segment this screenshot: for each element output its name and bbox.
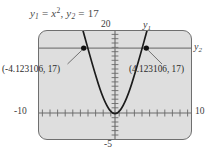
leader-line-left bbox=[68, 50, 82, 64]
graph-figure: y1 = x2, y2 = 17 bbox=[0, 0, 213, 158]
x-axis-min-label: -10 bbox=[14, 106, 27, 116]
curve-label-y2-subscript: 2 bbox=[198, 46, 202, 54]
y-axis-min-label: -5 bbox=[104, 139, 112, 149]
coordinate-label-right: (4.123106, 17) bbox=[129, 64, 184, 74]
y-axis-max-label: 20 bbox=[101, 19, 111, 29]
intersection-point-right bbox=[144, 45, 149, 50]
curve-label-y1-subscript: 1 bbox=[147, 24, 151, 32]
intersection-point-left bbox=[81, 45, 86, 50]
curve-label-y1: y1 bbox=[143, 19, 151, 32]
leader-line-right bbox=[148, 50, 162, 64]
coordinate-label-left: (-4.123106, 17) bbox=[2, 64, 60, 74]
x-axis-max-label: 10 bbox=[195, 106, 205, 116]
curve-label-y2: y2 bbox=[194, 41, 202, 54]
